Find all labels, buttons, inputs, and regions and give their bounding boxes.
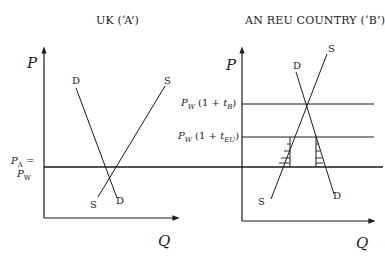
left-y-axis-label: P: [27, 54, 37, 72]
price-label-pa: PA =: [11, 155, 34, 169]
right-demand-label-top: D: [293, 60, 301, 71]
tb-p: P: [181, 97, 188, 108]
price-label-pw: PW: [17, 168, 31, 182]
right-panel-title: AN REU COUNTRY (‘B’): [245, 14, 385, 27]
left-demand-curve: [76, 88, 117, 198]
tb-p-sub: W: [188, 103, 195, 111]
right-demand-curve: [296, 72, 334, 194]
left-x-axis-label: Q: [158, 232, 170, 250]
right-supply-curve: [271, 54, 327, 199]
tb-rest: (1 +: [195, 97, 223, 108]
right-supply-label-top: S: [328, 43, 335, 54]
right-y-axis-label: P: [226, 56, 236, 74]
teu-p: P: [178, 130, 185, 141]
right-x-axis-label: Q: [356, 234, 368, 252]
tb-close: ): [232, 97, 236, 108]
tariff-b-label: PW (1 + tB): [181, 97, 236, 111]
left-supply-label-top: S: [164, 75, 171, 86]
teu-t-sub: EU: [224, 136, 235, 144]
left-demand-label-bottom: D: [116, 195, 124, 206]
left-panel-graph: [44, 50, 176, 218]
left-supply-label-bottom: S: [90, 199, 97, 210]
pw-subscript: W: [24, 174, 31, 182]
teu-close: ): [235, 130, 239, 141]
pa-symbol: P: [11, 155, 18, 166]
left-panel-title: UK (‘A’): [96, 14, 139, 27]
teu-rest: (1 +: [192, 130, 220, 141]
pw-symbol: P: [17, 168, 24, 179]
pa-equals: =: [23, 155, 35, 166]
tariff-eu-label: PW (1 + tEU): [178, 130, 239, 144]
left-demand-label-top: D: [72, 75, 80, 86]
teu-p-sub: W: [185, 136, 192, 144]
right-supply-label-bottom: S: [258, 196, 265, 207]
right-demand-label-bottom: D: [333, 190, 341, 201]
left-supply-curve: [98, 86, 165, 197]
